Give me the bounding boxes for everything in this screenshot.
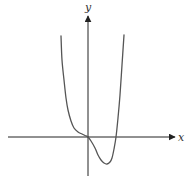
y-axis-label: y [84,1,92,14]
function-graph: x y [0,0,188,177]
x-axis-label: x [178,131,185,144]
function-curve [61,35,124,164]
